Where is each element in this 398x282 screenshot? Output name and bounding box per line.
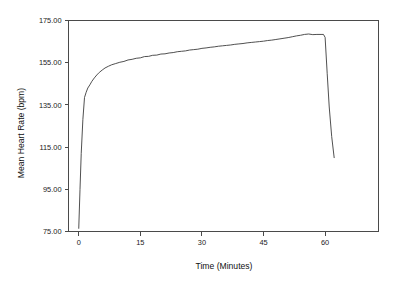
plot-frame: [69, 21, 379, 232]
chart-container: 015304560 75.0095.00115.00135.00155.0017…: [0, 0, 398, 282]
x-tick-label: 45: [259, 238, 267, 247]
plot-border: [69, 21, 379, 232]
y-tick-label: 155.00: [39, 58, 62, 67]
data-line-mean-heart-rate: [79, 34, 334, 228]
x-tick-label: 0: [77, 238, 81, 247]
y-axis-label: Mean Heart Rate (bpm): [16, 88, 26, 178]
y-tick-label: 75.00: [43, 227, 62, 236]
y-axis-ticks: 75.0095.00115.00135.00155.00175.00: [39, 16, 69, 236]
x-axis-ticks: 015304560: [77, 232, 330, 247]
line-chart-svg: 015304560 75.0095.00115.00135.00155.0017…: [0, 0, 398, 282]
x-tick-label: 15: [136, 238, 144, 247]
x-tick-label: 30: [198, 238, 206, 247]
y-tick-label: 95.00: [43, 185, 62, 194]
y-tick-label: 175.00: [39, 16, 62, 25]
data-series-group: [79, 34, 334, 228]
x-axis-label: Time (Minutes): [196, 261, 253, 271]
x-tick-label: 60: [321, 238, 329, 247]
y-tick-label: 115.00: [39, 143, 61, 152]
y-tick-label: 135.00: [39, 101, 62, 110]
